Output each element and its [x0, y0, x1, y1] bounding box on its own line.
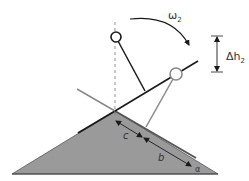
slope-triangle	[12, 111, 218, 174]
omega-label: ω2	[168, 9, 182, 24]
pendulum-slope-diagram: ω2 Δh2 c b α	[0, 0, 249, 181]
initial-plank-line	[77, 89, 115, 111]
rotated-plank-line	[115, 61, 198, 111]
c-label: c	[123, 130, 129, 141]
alpha-label: α	[195, 165, 200, 174]
b-label: b	[158, 152, 164, 163]
pendulum-bob-gray	[170, 68, 182, 80]
delta-h-label: Δh2	[226, 50, 245, 65]
pendulum-rod-black	[118, 41, 145, 91]
pendulum-rod-gray	[146, 79, 173, 127]
pendulum-bob-black	[111, 32, 121, 42]
